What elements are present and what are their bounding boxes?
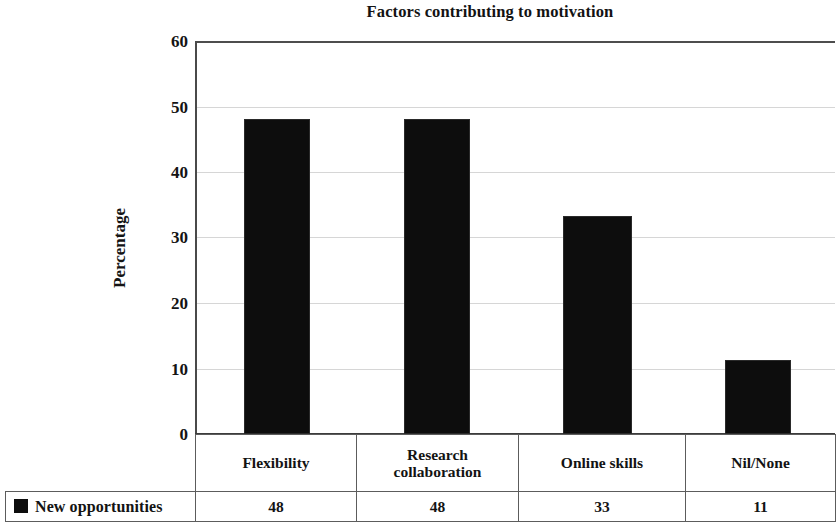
category-label-line1: Nil/None bbox=[686, 454, 835, 471]
y-axis-line bbox=[195, 41, 197, 435]
table-cell-value-nil-none: 11 bbox=[686, 492, 836, 522]
gridline-50 bbox=[196, 107, 835, 108]
legend-item-new-opportunities: New opportunities bbox=[6, 492, 196, 522]
category-label-line1: Flexibility bbox=[196, 454, 356, 471]
legend-label: New opportunities bbox=[35, 498, 162, 516]
table-row-categories: Flexibility Research collaboration Onlin… bbox=[6, 435, 836, 492]
bar-research-collaboration bbox=[404, 119, 470, 434]
y-axis-title: Percentage bbox=[110, 168, 130, 328]
table-row-values: New opportunities 48 48 33 11 bbox=[6, 492, 836, 522]
bar-nil-none bbox=[725, 360, 791, 434]
y-tick-label-20: 20 bbox=[146, 295, 188, 312]
category-label-line1: Online skills bbox=[519, 454, 685, 471]
category-label-line2: collaboration bbox=[357, 463, 518, 480]
gridline-60 bbox=[196, 41, 835, 43]
table-header-nil-none: Nil/None bbox=[686, 435, 836, 492]
chart-title: Factors contributing to motivation bbox=[195, 2, 785, 22]
table-cell-value-online-skills: 33 bbox=[519, 492, 686, 522]
y-tick-label-10: 10 bbox=[146, 361, 188, 378]
table-corner-blank bbox=[6, 435, 196, 492]
y-tick-label-60: 60 bbox=[146, 33, 188, 50]
bar-online-skills bbox=[563, 216, 632, 434]
y-tick-label-40: 40 bbox=[146, 164, 188, 181]
y-tick-label-50: 50 bbox=[146, 99, 188, 116]
legend-square-icon bbox=[14, 499, 28, 513]
y-tick-label-30: 30 bbox=[146, 229, 188, 246]
table-cell-value-flexibility: 48 bbox=[196, 492, 357, 522]
bar-flexibility bbox=[244, 119, 310, 434]
table-cell-value-research-collaboration: 48 bbox=[357, 492, 519, 522]
table-header-research-collaboration: Research collaboration bbox=[357, 435, 519, 492]
data-table: Flexibility Research collaboration Onlin… bbox=[5, 434, 835, 519]
table-header-flexibility: Flexibility bbox=[196, 435, 357, 492]
category-label-line1: Research bbox=[357, 446, 518, 463]
table-header-online-skills: Online skills bbox=[519, 435, 686, 492]
